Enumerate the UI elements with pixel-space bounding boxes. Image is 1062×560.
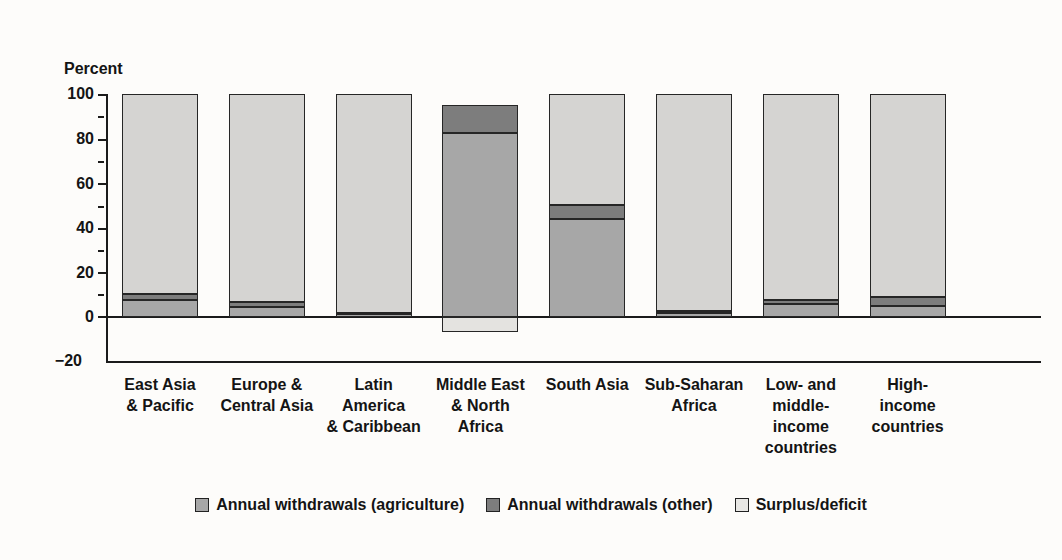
- bar-segment-other[interactable]: [229, 302, 305, 307]
- x-axis-label-line: South Asia: [528, 374, 646, 395]
- bar-segment-other[interactable]: [763, 300, 839, 304]
- bar-segment-agriculture[interactable]: [549, 219, 625, 317]
- bar-segment-surplus[interactable]: [656, 94, 732, 311]
- x-axis-label-line: middle-: [742, 395, 860, 416]
- legend-swatch-icon: [195, 498, 209, 512]
- ytick-label-20: 20: [46, 264, 94, 282]
- x-axis-label-line: Europe &: [208, 374, 326, 395]
- ytick-label-60: 60: [46, 175, 94, 193]
- y-axis-line: [106, 94, 108, 362]
- x-axis-line: [106, 361, 1041, 363]
- bar-segment-other[interactable]: [122, 294, 198, 300]
- legend-label-agriculture: Annual withdrawals (agriculture): [216, 496, 464, 514]
- tick-50: [98, 206, 104, 208]
- x-axis-label-line: & North: [421, 395, 539, 416]
- bar-segment-agriculture[interactable]: [442, 133, 518, 317]
- legend-swatch-icon: [486, 498, 500, 512]
- x-axis-label-line: East Asia: [101, 374, 219, 395]
- bar-segment-surplus[interactable]: [549, 94, 625, 205]
- bar-segment-agriculture[interactable]: [763, 304, 839, 317]
- bar-segment-other[interactable]: [549, 205, 625, 219]
- x-axis-label-line: & Caribbean: [315, 416, 433, 437]
- tick-10: [98, 294, 104, 296]
- bar-segment-agriculture[interactable]: [229, 307, 305, 317]
- bar-segment-agriculture[interactable]: [870, 306, 946, 317]
- x-axis-label-line: countries: [849, 416, 967, 437]
- bar-segment-agriculture[interactable]: [122, 300, 198, 317]
- tick-30: [98, 250, 104, 252]
- x-axis-label-line: Low- and: [742, 374, 860, 395]
- ytick-label-40: 40: [46, 219, 94, 237]
- x-axis-label-line: Africa: [635, 395, 753, 416]
- bar-segment-surplus[interactable]: [336, 94, 412, 313]
- x-axis-label-line: Middle East: [421, 374, 539, 395]
- legend-item-surplus-deficit[interactable]: Surplus/deficit: [735, 496, 867, 514]
- x-axis-label-line: Sub-Saharan: [635, 374, 753, 395]
- bar-segment-deficit[interactable]: [442, 317, 518, 332]
- ytick-label-80: 80: [46, 130, 94, 148]
- x-axis-label: LatinAmerica& Caribbean: [315, 374, 433, 437]
- x-axis-label-line: & Pacific: [101, 395, 219, 416]
- legend-swatch-icon: [735, 498, 749, 512]
- bar-segment-other[interactable]: [870, 297, 946, 306]
- x-axis-label-line: Africa: [421, 416, 539, 437]
- legend-label-surplus-deficit: Surplus/deficit: [756, 496, 867, 514]
- legend-item-agriculture[interactable]: Annual withdrawals (agriculture): [195, 496, 464, 514]
- x-axis-label: East Asia& Pacific: [101, 374, 219, 416]
- x-axis-label-line: High-: [849, 374, 967, 395]
- legend-item-other[interactable]: Annual withdrawals (other): [486, 496, 712, 514]
- bar-segment-surplus[interactable]: [122, 94, 198, 294]
- bar-segment-agriculture[interactable]: [656, 313, 732, 317]
- y-axis-title: Percent: [64, 60, 123, 78]
- bar-segment-other[interactable]: [336, 313, 412, 315]
- x-axis-label-line: income: [742, 416, 860, 437]
- x-axis-label-line: Latin: [315, 374, 433, 395]
- x-axis-label-line: countries: [742, 437, 860, 458]
- x-axis-label: Sub-SaharanAfrica: [635, 374, 753, 416]
- bar-segment-other[interactable]: [442, 105, 518, 133]
- ytick-label-100: 100: [46, 85, 94, 103]
- x-axis-label-line: income: [849, 395, 967, 416]
- legend-label-other: Annual withdrawals (other): [507, 496, 712, 514]
- ytick-label-neg20: −20: [34, 352, 82, 370]
- bar-segment-surplus[interactable]: [763, 94, 839, 300]
- chart-plot-area: Percent 100 80 60 40 20 0 −20 East Asia&…: [0, 0, 1062, 560]
- x-axis-label: Low- andmiddle-incomecountries: [742, 374, 860, 458]
- x-axis-label: High-incomecountries: [849, 374, 967, 437]
- bar-segment-surplus[interactable]: [229, 94, 305, 302]
- bar-segment-other[interactable]: [656, 311, 732, 313]
- tick-70: [98, 161, 104, 163]
- x-axis-label: Europe &Central Asia: [208, 374, 326, 416]
- ytick-label-0: 0: [46, 308, 94, 326]
- x-axis-label-line: America: [315, 395, 433, 416]
- tick-90: [98, 116, 104, 118]
- x-axis-label-line: Central Asia: [208, 395, 326, 416]
- figure-container: Percent 100 80 60 40 20 0 −20 East Asia&…: [0, 0, 1062, 560]
- bar-segment-surplus[interactable]: [870, 94, 946, 297]
- x-axis-label: South Asia: [528, 374, 646, 395]
- x-axis-label: Middle East& NorthAfrica: [421, 374, 539, 437]
- chart-legend: Annual withdrawals (agriculture) Annual …: [0, 496, 1062, 514]
